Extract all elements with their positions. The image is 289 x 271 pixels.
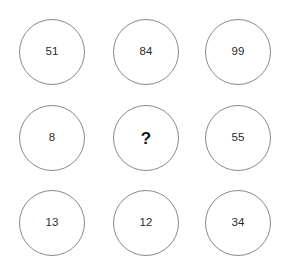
cell-value: 99: [232, 46, 245, 58]
cell-value: 84: [140, 46, 153, 58]
circle-cell-row2-col3[interactable]: 55: [205, 105, 271, 171]
circle-cell-row1-col3[interactable]: 99: [205, 19, 271, 85]
number-circle-grid: 51 84 99 8 ? 55 13 12 34: [0, 0, 289, 271]
question-mark-icon: ?: [141, 130, 151, 147]
circle-cell-row3-col1[interactable]: 13: [19, 190, 85, 256]
circle-cell-row3-col2[interactable]: 12: [113, 190, 179, 256]
cell-value: 34: [232, 217, 245, 229]
circle-cell-row2-col1[interactable]: 8: [19, 105, 85, 171]
cell-value: 12: [140, 217, 153, 229]
circle-cell-row3-col3[interactable]: 34: [205, 190, 271, 256]
cell-value: 51: [46, 46, 59, 58]
cell-value: 8: [49, 132, 56, 144]
cell-value: 13: [46, 217, 59, 229]
circle-cell-row2-col2-unknown[interactable]: ?: [113, 105, 179, 171]
circle-cell-row1-col2[interactable]: 84: [113, 19, 179, 85]
circle-cell-row1-col1[interactable]: 51: [19, 19, 85, 85]
cell-value: 55: [232, 132, 245, 144]
